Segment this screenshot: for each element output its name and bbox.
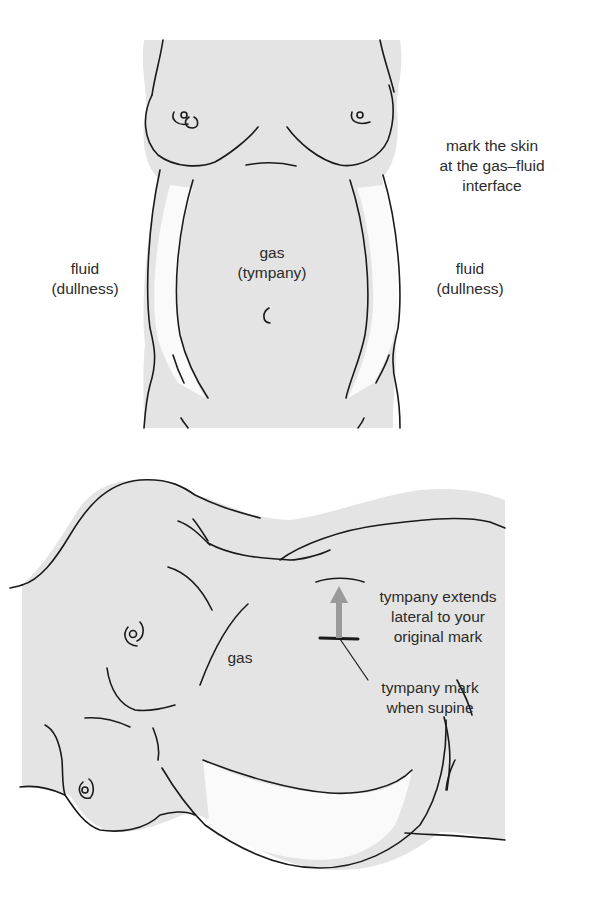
supine-line-1: tympany mark [360,678,500,698]
left-fluid-label: fluid (dullness) [40,259,130,299]
extends-line-3: original mark [353,627,523,647]
dependent-fluid-region [203,760,412,860]
annotation-line-3: interface [412,176,572,196]
supine-mark-label: tympany mark when supine [360,678,500,718]
left-dullness-text: (dullness) [40,279,130,299]
right-dullness-text: (dullness) [425,279,515,299]
center-gas-label: gas (tympany) [222,243,322,283]
supine-torso-figure [0,0,590,440]
extends-line-2: lateral to your [353,607,523,627]
right-fluid-label: fluid (dullness) [425,259,515,299]
side-body-fill [22,480,505,870]
annotation-line-2: at the gas–fluid [412,156,572,176]
gas-fluid-annotation: mark the skin at the gas–fluid interface [412,136,572,196]
tympany-extends-label: tympany extends lateral to your original… [353,587,523,647]
left-fluid-text: fluid [40,259,130,279]
gas-text: gas [222,243,322,263]
supine-line-2: when supine [360,698,500,718]
right-fluid-text: fluid [425,259,515,279]
up-arrow-icon [330,586,348,638]
annotation-line-1: mark the skin [412,136,572,156]
side-gas-text: gas [220,648,260,668]
side-gas-label: gas [220,648,260,668]
extends-line-1: tympany extends [353,587,523,607]
tympany-text: (tympany) [222,263,322,283]
